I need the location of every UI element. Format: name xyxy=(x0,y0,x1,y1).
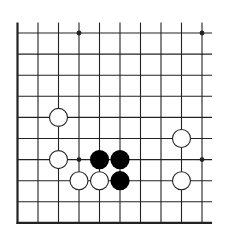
black-stone xyxy=(110,150,129,169)
white-stone xyxy=(91,172,109,190)
star-point-icon xyxy=(200,157,205,162)
black-stone xyxy=(90,150,109,169)
white-stone xyxy=(173,130,191,148)
white-stone xyxy=(50,151,68,169)
white-stone xyxy=(50,108,68,126)
star-point-icon xyxy=(77,31,82,36)
black-stone xyxy=(110,171,129,190)
star-point-icon xyxy=(200,31,205,36)
white-stone xyxy=(70,172,88,190)
star-point-icon xyxy=(77,157,82,162)
white-stone xyxy=(173,172,191,190)
go-board xyxy=(0,0,229,241)
board-grid xyxy=(17,23,213,224)
